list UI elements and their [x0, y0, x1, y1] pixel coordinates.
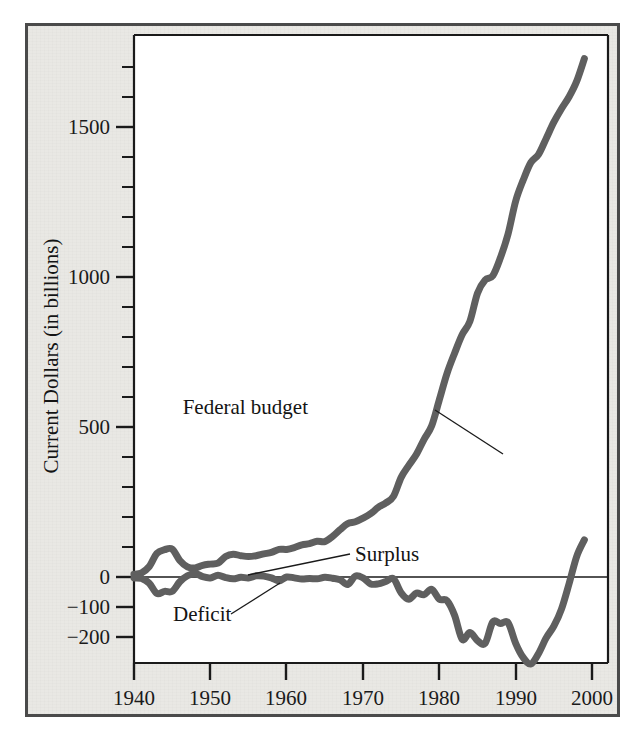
- y-tick-label: 500: [79, 415, 111, 439]
- x-tick-label: 1940: [113, 686, 155, 710]
- annotation-federal-budget: Federal budget: [183, 395, 309, 419]
- annotation-surplus: Surplus: [355, 542, 419, 566]
- x-tick-label: 2000: [571, 686, 613, 710]
- x-axis-tick-labels: 1940 1950 1960 1970 1980 1990 2000: [113, 686, 613, 710]
- x-tick-label: 1980: [418, 686, 460, 710]
- y-axis-title: Current Dollars (in billions): [39, 238, 63, 473]
- y-tick-label: −100: [67, 595, 110, 619]
- x-axis-ticks: [134, 663, 592, 680]
- y-tick-label: 1500: [68, 115, 110, 139]
- plot-area-background: [134, 35, 608, 663]
- x-tick-label: 1950: [189, 686, 231, 710]
- y-tick-label: −200: [67, 625, 110, 649]
- x-tick-label: 1960: [265, 686, 307, 710]
- y-axis-tick-labels: 1500 1000 500 0 −100 −200: [67, 115, 110, 649]
- scanned-page-panel: 1500 1000 500 0 −100 −200 Current Dollar…: [25, 23, 620, 717]
- x-tick-label: 1990: [495, 686, 537, 710]
- y-tick-label: 0: [100, 565, 111, 589]
- y-tick-label: 1000: [68, 265, 110, 289]
- figure-root: 1500 1000 500 0 −100 −200 Current Dollar…: [0, 0, 642, 752]
- budget-deficit-line-chart: 1500 1000 500 0 −100 −200 Current Dollar…: [28, 26, 617, 714]
- x-tick-label: 1970: [342, 686, 384, 710]
- y-axis-ticks: [116, 67, 134, 637]
- annotation-deficit: Deficit: [173, 602, 231, 626]
